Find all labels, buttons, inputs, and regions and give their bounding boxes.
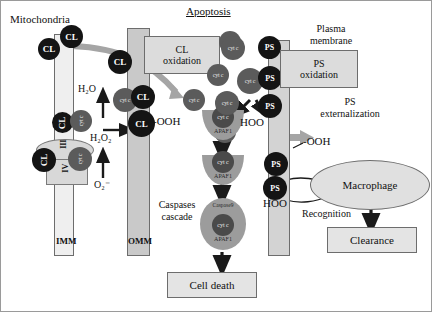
cl-text: CL [137, 92, 150, 102]
h2o-label: H₂O [78, 84, 96, 95]
cytc-text: cyt c [228, 45, 239, 51]
imm-label: IMM [56, 237, 77, 246]
cytc-text: cyt c [245, 78, 256, 84]
apaf1-label: APAF1 [200, 236, 246, 242]
ps-text: PS [265, 43, 274, 52]
caspase9-label: Caspase9 [200, 202, 246, 208]
complex-iii-label: III [60, 136, 68, 152]
omm-label: OMM [128, 237, 152, 246]
heading-mitochondria: Mitochondria [10, 14, 70, 26]
cytc-cytosol-2: cyt c [207, 64, 229, 86]
cl-ooh-molecule: CL [128, 110, 155, 137]
ooh-label-external: -OOH [303, 136, 331, 148]
ps-molecule-3: PS [258, 94, 282, 118]
apaf1-label: APAF1 [202, 128, 244, 134]
cl-molecule-omm-1: CL [131, 85, 155, 109]
macrophage-cell: Macrophage [310, 160, 430, 210]
apoptosome-stage-3-caspase9: Caspase9 cyt c APAF1 [200, 198, 246, 250]
ps-text: PS [271, 160, 280, 169]
cell-death-box: Cell death [167, 272, 257, 298]
cl-ooh-label: -OOH [153, 116, 181, 128]
cl-oxidation-line2: oxidation [163, 55, 201, 67]
heading-plasma-membrane-line2: membrane [296, 36, 366, 47]
cl-text: CL [65, 32, 78, 42]
cl-text: CL [135, 119, 148, 129]
heading-apoptosis: Apoptosis [186, 6, 231, 18]
cl-molecule-imm-2: CL [60, 25, 83, 48]
ooh-leader [293, 143, 303, 148]
cytc-text: cyt c [78, 116, 84, 127]
caspases-cascade-line1: Caspases [148, 200, 206, 211]
apoptosome-cytc-core: cyt c [212, 214, 234, 236]
ps-externalization-line1: PS [300, 97, 400, 108]
cl-text: CL [114, 57, 127, 67]
ps-text: PS [265, 102, 274, 111]
cytc-text: cyt c [77, 154, 83, 165]
cytc-text: cyt c [120, 97, 131, 103]
ps-molecule-2: PS [258, 66, 282, 90]
h2o2-label: H₂O₂ [90, 133, 111, 144]
apaf1-label: APAF1 [202, 173, 244, 179]
hoo-label-upper: HOO [240, 117, 264, 129]
apoptosome-cytc-core: cyt c [212, 151, 234, 173]
ps-molecule-1: PS [258, 36, 281, 59]
cytc-molecule-imm-2: cyt c [68, 147, 92, 171]
apoptosome-stage-2: cyt c APAF1 [202, 155, 244, 185]
ps-oxidation-box: PS oxidation [280, 50, 358, 88]
cytc-near-pm-2: cyt c [215, 91, 239, 115]
hoo-label-lower: HOO [263, 198, 287, 210]
ps-molecule-external-1: PS [264, 152, 288, 176]
ps-text: PS [265, 74, 274, 83]
recognition-label: Recognition [302, 209, 351, 220]
cl-molecule-omm-2: CL [108, 50, 132, 74]
cytc-molecule-imm-1: cyt c [70, 110, 92, 132]
cytc-cytosol-1: cyt c [183, 89, 205, 111]
cl-oxidation-line1: CL [176, 44, 189, 56]
ps-text: PS [270, 184, 279, 193]
clearance-box: Clearance [327, 227, 417, 253]
ps-externalization-line2: externalization [300, 109, 400, 120]
cl-text: CL [39, 154, 49, 167]
cytc-near-pm-1: cyt c [221, 36, 245, 60]
cytc-text: cyt c [213, 72, 224, 78]
ps-oxidation-line2: oxidation [300, 69, 338, 81]
heading-plasma-membrane-line1: Plasma [296, 24, 366, 35]
cytc-text: cyt c [217, 159, 229, 165]
cl-text: CL [57, 116, 67, 129]
cl-text: CL [43, 44, 56, 54]
cell-death-label: Cell death [190, 279, 235, 292]
cytc-text: cyt c [222, 100, 233, 106]
figure-canvas: Mitochondria Apoptosis Plasma membrane I… [0, 0, 433, 313]
cytc-text: cyt c [189, 97, 200, 103]
cl-molecule-imm-1: CL [38, 38, 60, 60]
caspases-cascade-line2: cascade [148, 212, 206, 223]
cytc-text: cyt c [217, 222, 229, 228]
macrophage-label: Macrophage [343, 179, 398, 191]
cl-molecule-imm-4: CL [32, 148, 56, 172]
clearance-label: Clearance [350, 234, 394, 247]
o2-radical-label: O₂⁻ [94, 180, 110, 191]
ps-oxidation-line1: PS [313, 58, 324, 70]
